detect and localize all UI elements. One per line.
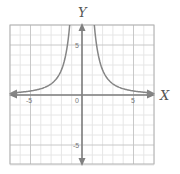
graph: Y X -5 0 5 5 -5	[0, 0, 180, 174]
y-tick-label-pos5: 5	[75, 42, 79, 49]
y-axis-up-arrow-icon	[79, 23, 86, 31]
y-axis-title: Y	[78, 5, 88, 20]
origin-label: 0	[75, 97, 79, 104]
x-axis-title: X	[159, 88, 170, 103]
x-tick-label-pos5: 5	[131, 97, 135, 104]
y-tick-label-neg5: -5	[73, 142, 79, 149]
x-tick-label-neg5: -5	[26, 97, 32, 104]
